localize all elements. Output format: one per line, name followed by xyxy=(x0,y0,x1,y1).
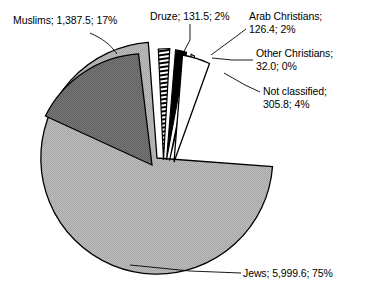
slice-label-arab-christians-line2: 126.4; 2% xyxy=(249,23,295,35)
slice-label-muslims: Muslims; 1,387.5; 17% xyxy=(13,14,117,27)
slice-label-other-christians: Other Christians;32.0; 0% xyxy=(256,47,333,72)
leader-line-other-christians xyxy=(212,58,253,60)
slice-label-other-christians-line2: 32.0; 0% xyxy=(256,60,297,72)
slice-label-jews: Jews; 5,999.6; 75% xyxy=(243,267,333,280)
pie-chart: Muslims; 1,387.5; 17% Druze; 131.5; 2% A… xyxy=(0,0,367,294)
slice-label-druze: Druze; 131.5; 2% xyxy=(150,10,230,23)
pie-slice-jews xyxy=(41,42,273,274)
slice-label-not-classified-line1: Not classified; xyxy=(263,85,327,97)
leader-line-not-classified xyxy=(224,73,260,92)
slice-label-other-christians-line1: Other Christians; xyxy=(256,47,333,59)
pie-chart-canvas xyxy=(0,0,367,294)
slice-label-arab-christians-line1: Arab Christians; xyxy=(249,10,322,22)
leader-line-druze xyxy=(182,24,190,55)
slice-label-arab-christians: Arab Christians;126.4; 2% xyxy=(249,10,322,35)
slice-label-not-classified: Not classified;305.8; 4% xyxy=(263,85,327,110)
leader-line-arab-christians xyxy=(211,29,246,55)
slice-label-not-classified-line2: 305.8; 4% xyxy=(263,98,309,110)
